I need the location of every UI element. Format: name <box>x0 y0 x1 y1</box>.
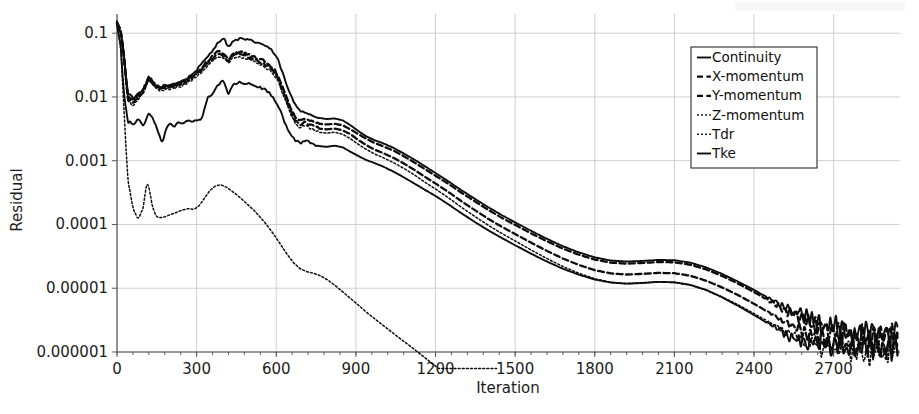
residual-convergence-chart: 0.10.010.0010.00010.000010.000001 030060… <box>0 0 919 414</box>
y-tick-label: 0.001 <box>65 152 108 170</box>
legend-label-z-momentum[interactable]: Z-momentum <box>712 107 804 123</box>
x-tick-label: 900 <box>342 360 371 378</box>
x-tick-label: 0 <box>112 360 122 378</box>
chart-canvas: 0.10.010.0010.00010.000010.000001 030060… <box>0 0 919 414</box>
legend-label-y-momentum[interactable]: Y-momentum <box>711 87 802 103</box>
x-axis-title: Iteration <box>476 379 540 397</box>
x-tick-label: 1200 <box>416 360 454 378</box>
scan-artifact <box>735 2 905 11</box>
x-tick-label: 1800 <box>576 360 614 378</box>
legend-label-tke[interactable]: Tke <box>711 145 736 161</box>
x-tick-label: 1500 <box>496 360 534 378</box>
x-tick-label: 2400 <box>735 360 773 378</box>
y-axis-title: Residual <box>8 168 26 231</box>
legend-label-x-momentum[interactable]: X-momentum <box>712 68 804 84</box>
y-tick-label: 0.0001 <box>56 215 109 233</box>
chart-legend[interactable]: ContinuityX-momentumY-momentumZ-momentum… <box>691 47 817 168</box>
x-tick-label: 2700 <box>815 360 853 378</box>
x-tick-label: 600 <box>262 360 291 378</box>
x-tick-label: 300 <box>182 360 211 378</box>
y-tick-label: 0.1 <box>84 24 108 42</box>
legend-label-tdr[interactable]: Tdr <box>711 126 735 142</box>
x-tick-label: 2100 <box>655 360 693 378</box>
y-tick-label: 0.00001 <box>46 279 108 297</box>
y-tick-label: 0.000001 <box>36 343 108 361</box>
legend-label-continuity[interactable]: Continuity <box>712 49 781 65</box>
y-tick-label: 0.01 <box>75 88 108 106</box>
